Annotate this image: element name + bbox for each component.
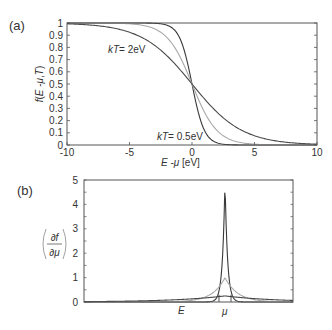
- partial-mu: ∂μ: [49, 247, 60, 258]
- panel-a-x-axis-label: E -μ [eV]: [161, 157, 200, 168]
- y-tick-label: 0.1: [49, 127, 63, 138]
- panel-a-y-axis-label: f(E -μ,T): [34, 66, 45, 103]
- partial-f: ∂f: [51, 232, 60, 243]
- right-paren: [63, 229, 66, 259]
- panel-b-curves: [84, 193, 293, 302]
- panel-b-y-axis-label: ∂f ∂μ: [43, 229, 66, 259]
- panel-b-y-ticks: 012345: [72, 175, 293, 308]
- y-tick-label: 0: [72, 297, 78, 308]
- x-tick-label: 10: [311, 147, 323, 158]
- derivative-curve-2: [84, 278, 293, 302]
- y-tick-label: 0.4: [49, 91, 63, 102]
- panel-b-x-label-e: E: [178, 305, 185, 316]
- y-tick-label: 2: [72, 248, 78, 259]
- y-tick-label: 1: [72, 272, 78, 283]
- panel-b-derivative: (b) 012345 ∂f ∂μ E μ: [17, 175, 293, 318]
- y-tick-label: 1: [57, 18, 63, 29]
- curve-kt-2: [67, 24, 317, 144]
- annotation-kt-2ev: kT= 2eV: [108, 44, 146, 55]
- panel-a-label: (a): [9, 18, 25, 33]
- y-tick-label: 4: [72, 199, 78, 210]
- y-tick-label: 0.3: [49, 103, 63, 114]
- panel-b-frame: [84, 180, 293, 302]
- x-tick-label: 5: [252, 147, 258, 158]
- figure: (a) 00.10.20.30.40.50.60.70.80.91 -10-50…: [0, 0, 332, 330]
- panel-a-fermi-dirac: (a) 00.10.20.30.40.50.60.70.80.91 -10-50…: [9, 18, 323, 169]
- panel-a-curves: [67, 23, 317, 145]
- x-tick-label: -10: [60, 147, 75, 158]
- y-tick-label: 3: [72, 223, 78, 234]
- y-tick-label: 0.8: [49, 42, 63, 53]
- panel-b-x-label-mu: μ: [221, 306, 228, 317]
- y-tick-label: 0.6: [49, 66, 63, 77]
- y-tick-label: 0.9: [49, 30, 63, 41]
- y-tick-label: 0.7: [49, 54, 63, 65]
- annotation-kt-0-5ev: kT= 0.5eV: [157, 131, 203, 142]
- x-tick-label: -5: [125, 147, 134, 158]
- y-tick-label: 0.2: [49, 115, 63, 126]
- panel-b-label: (b): [17, 183, 33, 198]
- y-tick-label: 5: [72, 175, 78, 186]
- y-tick-label: 0.5: [49, 79, 63, 90]
- left-paren: [43, 229, 46, 259]
- derivative-curve-1: [84, 193, 293, 302]
